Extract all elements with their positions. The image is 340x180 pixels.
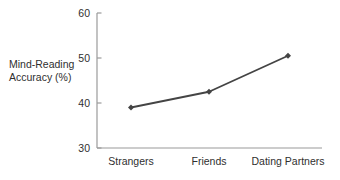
x-tick-label-friends: Friends [191, 155, 226, 167]
line-chart: Mind-Reading Accuracy (%) 60 50 40 30 St… [0, 0, 340, 180]
data-point-marker-friends [206, 89, 212, 95]
data-line-mind-reading-accuracy [131, 56, 288, 108]
data-point-marker-strangers [128, 105, 134, 111]
data-point-markers [128, 53, 291, 111]
plot-area [0, 0, 340, 180]
x-tick-label-dating-partners: Dating Partners [252, 155, 325, 167]
x-tick-label-strangers: Strangers [108, 155, 154, 167]
data-point-marker-dating-partners [285, 53, 291, 59]
